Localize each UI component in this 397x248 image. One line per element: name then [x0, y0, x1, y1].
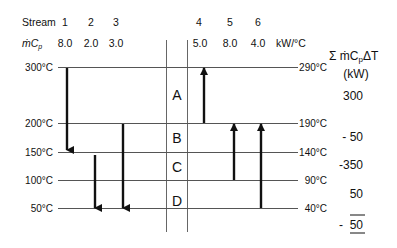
mcp-label-sub: p [37, 43, 42, 51]
stream-5-mcp: 8.0 [223, 37, 238, 49]
stream-1-mcp: 8.0 [58, 37, 73, 49]
interval-a: A [172, 87, 182, 103]
stream-1-id: 1 [62, 16, 68, 28]
cold-temp-90: 90°C [305, 175, 327, 186]
hot-temp-100: 100°C [25, 175, 53, 186]
stream-6-id: 6 [255, 16, 261, 28]
stream-3-mcp: 3.0 [109, 37, 124, 49]
hot-temp-200: 200°C [25, 118, 53, 129]
sum-header-units: (kW) [343, 67, 368, 81]
stream-6-mcp: 4.0 [251, 37, 266, 49]
sum-interval-b: - 50 [342, 130, 363, 144]
cold-temp-290: 290°C [299, 62, 327, 73]
sum-symbol: Σ ṁC [329, 49, 359, 63]
cold-temp-40: 40°C [305, 203, 327, 214]
sum-header-line1: Σ ṁCpΔT [329, 49, 379, 64]
sum-interval-d: 50 [350, 187, 364, 201]
stream-2-mcp: 2.0 [84, 37, 99, 49]
interval-b: B [172, 130, 181, 146]
mcp-label-main: ṁC [22, 37, 39, 49]
total-sign: - [339, 218, 343, 232]
temperature-interval-diagram: Stream 1 2 3 4 5 6 ṁCp 8.0 2.0 3.0 5.0 8… [0, 0, 397, 248]
stream-2-id: 2 [88, 16, 94, 28]
sum-interval-c: -350 [339, 158, 363, 172]
stream-label: Stream [22, 16, 56, 28]
stream-4-mcp: 5.0 [193, 37, 208, 49]
stream-5-id: 5 [227, 16, 233, 28]
cold-temp-190: 190°C [299, 118, 327, 129]
cold-temp-140: 140°C [299, 147, 327, 158]
hot-temp-50: 50°C [31, 203, 53, 214]
interval-d: D [172, 193, 182, 209]
stream-3-id: 3 [113, 16, 119, 28]
mcp-label: ṁCp [22, 37, 42, 51]
mcp-units: kW/°C [276, 37, 306, 49]
hot-temp-150: 150°C [25, 147, 53, 158]
interval-c: C [172, 159, 182, 175]
stream-4-id: 4 [196, 16, 202, 28]
sum-delta-t: ΔT [363, 49, 379, 63]
hot-temp-300: 300°C [25, 62, 53, 73]
sum-interval-a: 300 [343, 89, 363, 103]
total-value: 50 [350, 218, 364, 232]
